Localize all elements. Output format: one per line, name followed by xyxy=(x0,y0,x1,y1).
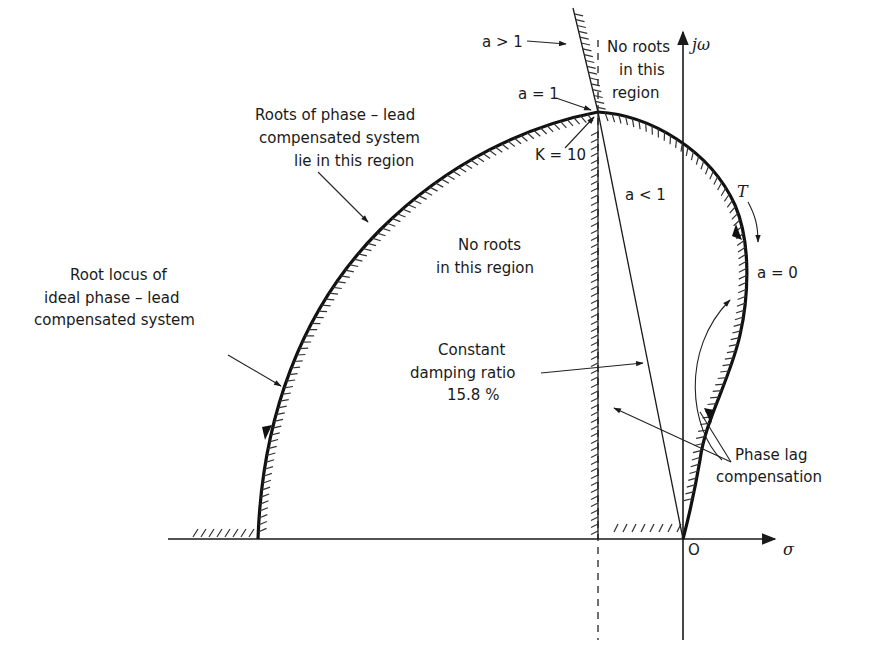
root-locus-ideal-line2: ideal phase – lead xyxy=(44,289,179,307)
constant-damping-line2: damping ratio xyxy=(410,364,515,382)
roots-phase-lead-line1: Roots of phase – lead xyxy=(255,106,415,124)
sigma-axis-label: σ xyxy=(783,540,795,559)
jw-axis-label: jω xyxy=(689,35,710,54)
no-roots-center-line1: No roots xyxy=(458,236,521,254)
root-locus-ideal-line3: compensated system xyxy=(34,311,195,329)
phase-lag-line1: Phase lag xyxy=(735,446,807,464)
phase-lead-root-locus xyxy=(258,112,598,539)
constant-damping-line3: 15.8 % xyxy=(447,386,499,404)
arc-hatching xyxy=(258,114,593,532)
no-roots-top-line3: region xyxy=(612,84,659,102)
no-roots-top-line1: No roots xyxy=(607,38,670,56)
constant-damping-line1: Constant xyxy=(438,341,506,359)
no-roots-center-line2: in this region xyxy=(436,259,534,277)
roots-phase-lead-line3: lie in this region xyxy=(294,152,414,170)
a-gt-1-leader xyxy=(527,41,566,44)
a-eq-0-label: a = 0 xyxy=(757,264,798,282)
right-arc-hatching xyxy=(605,113,747,501)
k-eq-10-label: K = 10 xyxy=(535,146,586,164)
t-direction-arrow xyxy=(748,202,758,242)
root-locus-ideal-leader xyxy=(228,355,281,386)
root-locus-diagram: a > 1 No roots in this region jω σ O a =… xyxy=(0,0,873,662)
roots-phase-lead-leader xyxy=(318,172,368,222)
a-gt-1-hatching xyxy=(574,14,605,109)
constant-damping-leader xyxy=(541,363,643,373)
axis-hatching-left xyxy=(193,529,254,537)
a-gt-1-boundary-line xyxy=(573,8,598,112)
phase-lag-line2: compensation xyxy=(716,468,822,486)
no-roots-top-line2: in this xyxy=(619,61,665,79)
a-lt-1-label: a < 1 xyxy=(625,186,666,204)
constant-damping-ratio-line xyxy=(598,112,683,539)
t-label: T xyxy=(737,182,749,201)
a-eq-1-label: a = 1 xyxy=(518,85,559,103)
roots-phase-lead-line2: compensated system xyxy=(259,129,420,147)
origin-label: O xyxy=(688,541,700,559)
a-gt-1-label: a > 1 xyxy=(482,33,523,51)
bottom-hatching xyxy=(614,524,681,532)
vertical-hatching xyxy=(591,132,598,535)
root-locus-ideal-line1: Root locus of xyxy=(70,266,168,284)
a-eq-1-leader xyxy=(556,98,591,110)
